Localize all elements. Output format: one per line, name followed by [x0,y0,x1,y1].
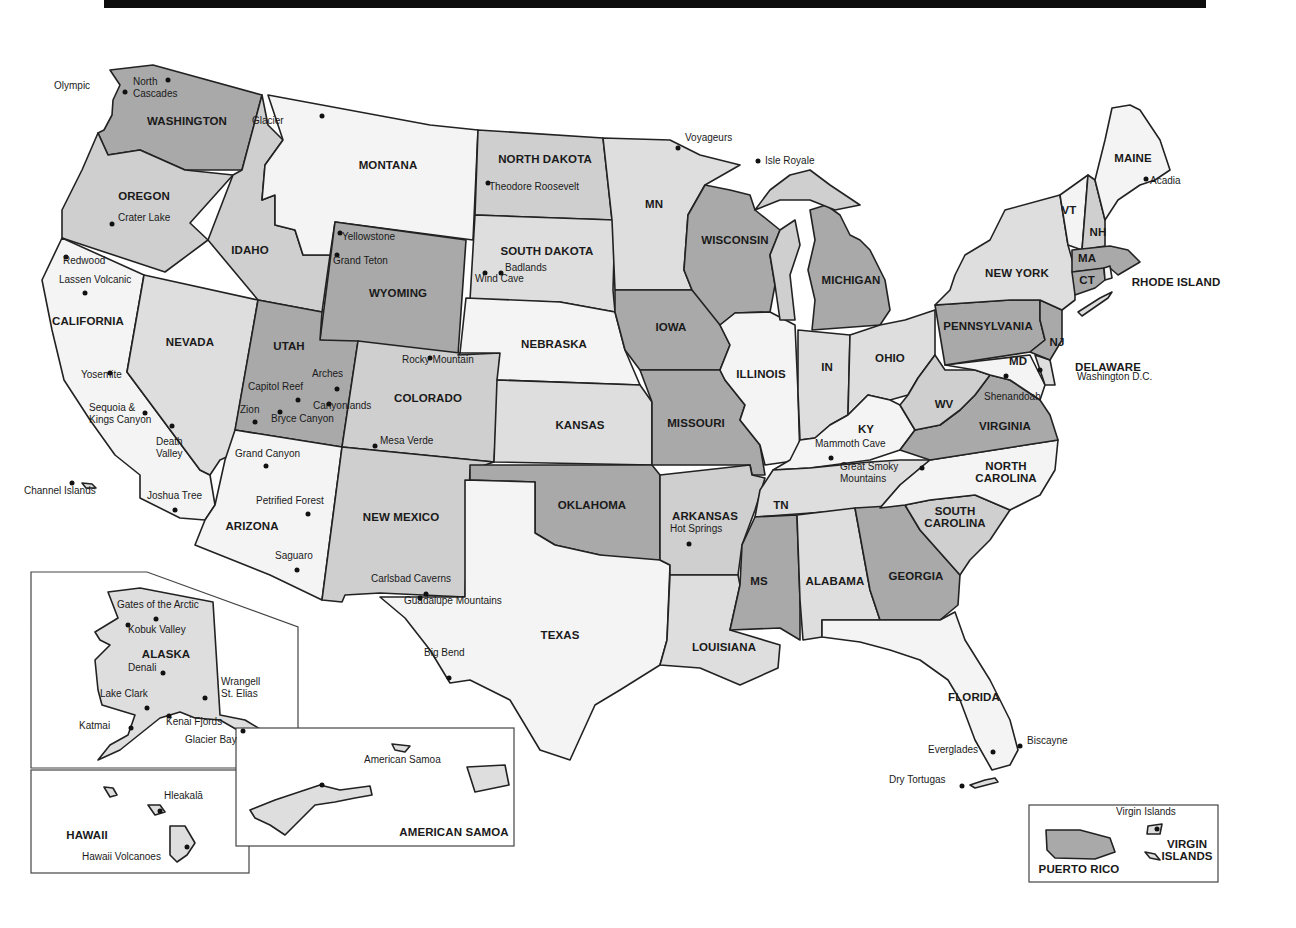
state-label-la: LOUISIANA [692,641,756,653]
park-location-dot[interactable] [170,424,175,429]
park-label: Lassen Volcanic [59,274,131,286]
state-label-ri: RHODE ISLAND [1132,276,1221,288]
park-location-dot[interactable] [145,706,150,711]
park-location-dot[interactable] [123,90,128,95]
park-label: NorthCascades [133,76,177,100]
state-label-hi: HAWAII [66,829,108,841]
florida-keys [970,778,998,788]
park-location-dot[interactable] [373,444,378,449]
park-label: Grand Canyon [235,448,300,460]
park-label: WrangellSt. Elias [221,676,260,700]
state-label-nc: NORTHCAROLINA [975,460,1037,484]
state-label-va: VIRGINIA [979,420,1031,432]
park-location-dot[interactable] [296,398,301,403]
park-label: Glacier Bay [185,734,237,746]
park-location-dot[interactable] [83,291,88,296]
state-label-al: ALABAMA [806,575,865,587]
state-label-co: COLORADO [394,392,462,404]
state-label-me: MAINE [1114,152,1152,164]
park-label: American Samoa [364,754,441,766]
state-rhode-island[interactable] [1104,266,1112,280]
park-location-dot[interactable] [264,464,269,469]
park-label: Yosemite [81,369,122,381]
state-label-mo: MISSOURI [667,417,725,429]
park-label: Sequoia &Kings Canyon [89,402,151,426]
park-location-dot[interactable] [1004,374,1009,379]
state-new-york[interactable] [935,195,1075,310]
park-location-dot[interactable] [161,671,166,676]
state-label-vt: VT [1062,204,1077,216]
park-location-dot[interactable] [335,387,340,392]
park-location-dot[interactable] [1038,368,1043,373]
park-location-dot[interactable] [1018,744,1023,749]
state-label-ok: OKLAHOMA [558,499,627,511]
park-location-dot[interactable] [960,784,965,789]
park-label: Petrified Forest [256,495,324,507]
park-location-dot[interactable] [1155,827,1160,832]
park-label: Great SmokyMountains [840,461,898,485]
park-label: Canyonlands [313,400,371,412]
state-label-il: ILLINOIS [736,368,785,380]
park-location-dot[interactable] [676,146,681,151]
park-label: Isle Royale [765,155,814,167]
state-label-ca: CALIFORNIA [52,315,124,327]
state-label-ut: UTAH [273,340,305,352]
state-label-mt: MONTANA [359,159,418,171]
park-location-dot[interactable] [829,456,834,461]
park-location-dot[interactable] [173,508,178,513]
state-label-az: ARIZONA [225,520,278,532]
park-label: Mammoth Cave [815,438,886,450]
park-label: Lake Clark [100,688,148,700]
park-label: Hleakalā [164,790,203,802]
state-label-ak: ALASKA [142,648,191,660]
state-label-ga: GEORGIA [888,570,943,582]
park-label: Glacier [252,115,284,127]
park-location-dot[interactable] [253,420,258,425]
park-label: Grand Teton [333,255,388,267]
park-label: Virgin Islands [1116,806,1176,818]
park-location-dot[interactable] [306,512,311,517]
park-location-dot[interactable] [129,726,134,731]
state-michigan[interactable] [808,205,890,330]
park-label: Gates of the Arctic [117,599,199,611]
park-label: Theodore Roosevelt [489,181,579,193]
state-label-ct: CT [1079,274,1095,286]
park-location-dot[interactable] [756,159,761,164]
state-michigan-upper[interactable] [755,170,860,210]
park-location-dot[interactable] [185,845,190,850]
park-label: Biscayne [1027,735,1068,747]
state-label-ny: NEW YORK [985,267,1049,279]
state-label-as: AMERICAN SAMOA [399,826,508,838]
park-label: Carlsbad Caverns [371,573,451,585]
state-label-sc: SOUTHCAROLINA [924,505,986,529]
state-north-dakota[interactable] [475,130,612,220]
park-location-dot[interactable] [447,676,452,681]
park-location-dot[interactable] [687,542,692,547]
park-label: Shenandoah [984,391,1041,403]
state-label-nj: NJ [1050,336,1065,348]
state-label-ia: IOWA [655,321,686,333]
state-label-ms: MS [750,575,767,587]
park-location-dot[interactable] [920,466,925,471]
state-label-oh: OHIO [875,352,905,364]
park-label: Acadia [1150,175,1181,187]
park-location-dot[interactable] [320,783,325,788]
park-location-dot[interactable] [1144,177,1149,182]
park-location-dot[interactable] [154,617,159,622]
park-label: Mesa Verde [380,435,433,447]
park-label: Yellowstone [342,231,395,243]
park-location-dot[interactable] [295,568,300,573]
state-label-nm: NEW MEXICO [363,511,439,523]
state-label-sd: SOUTH DAKOTA [501,245,594,257]
park-location-dot[interactable] [110,222,115,227]
park-location-dot[interactable] [241,729,246,734]
park-location-dot[interactable] [203,696,208,701]
state-label-md: MD [1009,355,1027,367]
park-location-dot[interactable] [320,114,325,119]
park-label: Zion [240,404,259,416]
park-location-dot[interactable] [991,750,996,755]
park-label: DeathValley [156,436,183,460]
park-label: Joshua Tree [147,490,202,502]
park-location-dot[interactable] [158,809,163,814]
state-label-ar: ARKANSAS [672,510,738,522]
